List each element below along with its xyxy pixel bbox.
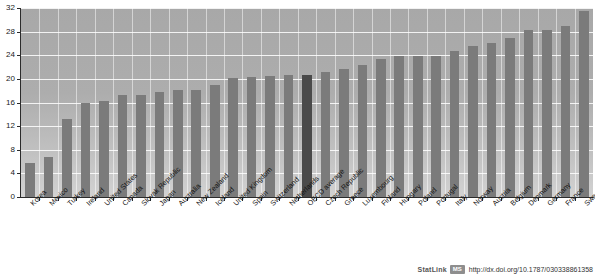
y-tick-label: 4 — [11, 169, 15, 177]
bar — [265, 76, 275, 197]
bar — [228, 78, 238, 197]
y-tick-label: 8 — [11, 146, 15, 154]
bar — [505, 38, 515, 197]
bar — [99, 101, 109, 197]
bar — [561, 26, 571, 197]
y-tick-label: 24 — [6, 51, 15, 59]
bar — [468, 46, 478, 197]
statlink-badge-icon: MS — [450, 265, 465, 274]
bars-container — [21, 8, 593, 197]
bar — [81, 103, 91, 197]
bar — [173, 90, 183, 197]
cropped-header-text — [250, 0, 450, 6]
y-tick-label: 28 — [6, 28, 15, 36]
statlink-footer: StatLink MS http://dx.doi.org/10.1787/03… — [0, 262, 595, 276]
x-axis-labels: KoreaMexicoTurkeyIrelandUnited StatesCan… — [0, 200, 595, 258]
bar — [524, 30, 534, 197]
statlink-label: StatLink — [418, 266, 447, 273]
y-tick-label: 16 — [6, 99, 15, 107]
bar — [450, 51, 460, 197]
y-tick-label: 20 — [6, 75, 15, 83]
bar — [579, 11, 589, 197]
bar — [431, 56, 441, 197]
bar — [487, 43, 497, 197]
bar — [542, 30, 552, 197]
y-tick-label: 32 — [6, 4, 15, 12]
bar — [394, 56, 404, 197]
bar — [413, 56, 423, 197]
bar-chart: 048121620242832 KoreaMexicoTurkeyIreland… — [0, 0, 595, 276]
y-tick-label: 12 — [6, 122, 15, 130]
plot-area — [21, 8, 593, 197]
bar — [25, 163, 35, 197]
statlink-url[interactable]: http://dx.doi.org/10.1787/030338861358 — [469, 266, 593, 273]
y-axis: 048121620242832 — [0, 0, 21, 197]
bar — [136, 95, 146, 197]
